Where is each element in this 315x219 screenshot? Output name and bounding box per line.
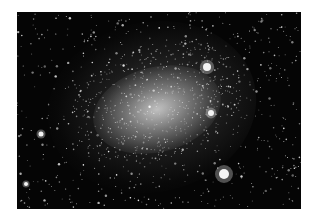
bright-star-lower-left xyxy=(24,182,28,186)
nebula-upper-right xyxy=(203,63,211,71)
bright-star-left xyxy=(39,132,44,137)
galaxy-photograph xyxy=(17,12,301,209)
nebula-lower-right xyxy=(219,169,229,179)
nebula-right xyxy=(208,110,214,116)
star-field xyxy=(17,12,301,209)
